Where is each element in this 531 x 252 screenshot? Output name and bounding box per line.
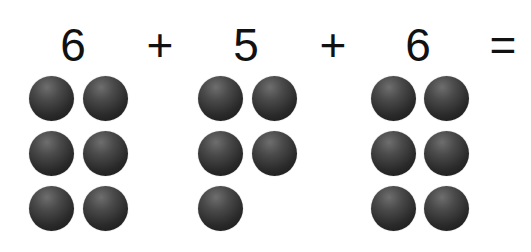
ball-icon [371,76,416,121]
term-3-number: 6 [405,22,431,68]
ball-icon [198,131,243,176]
ball-icon [83,76,128,121]
ball-icon [83,186,128,231]
ball-icon [198,186,243,231]
plus-sign-2: + [320,22,347,68]
ball-icon [83,131,128,176]
ball-icon [252,131,297,176]
ball-icon [424,186,469,231]
term-1-number: 6 [60,22,86,68]
equals-sign: = [490,22,517,68]
ball-icon [371,186,416,231]
ball-icon [29,186,74,231]
ball-icon [29,76,74,121]
ball-icon [252,76,297,121]
ball-icon [198,76,243,121]
plus-sign-1: + [147,22,174,68]
ball-icon [29,131,74,176]
ball-icon [424,131,469,176]
ball-icon [424,76,469,121]
ball-icon [371,131,416,176]
term-2-number: 5 [233,22,259,68]
